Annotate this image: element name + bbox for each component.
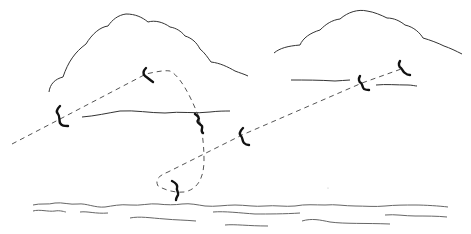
speck — [327, 187, 328, 188]
